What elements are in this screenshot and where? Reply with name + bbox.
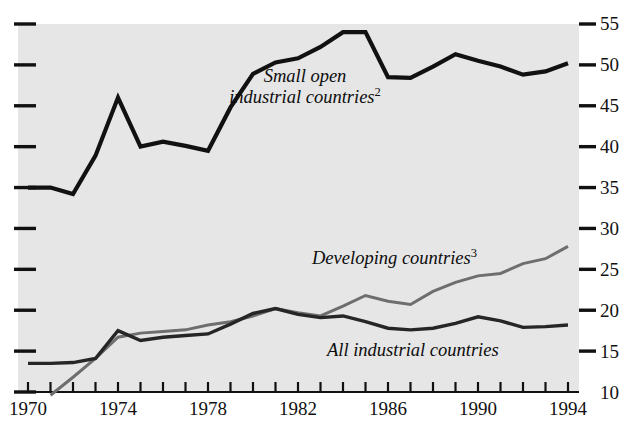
chart-figure: 55 50 45 40 35 30 25 20 15 10 1970 1974 …	[0, 0, 632, 430]
y-tick-label-15: 15	[600, 342, 619, 361]
x-tick-label-1986: 1986	[360, 399, 416, 418]
annotation-small-open-industrial-countries: Small open industrial countries2	[180, 66, 430, 107]
y-tick-label-30: 30	[600, 219, 619, 238]
x-tick-label-1974: 1974	[90, 399, 146, 418]
annotation-footnote: 3	[471, 246, 477, 260]
y-tick-label-25: 25	[600, 260, 619, 279]
annotation-line-1: Small open	[264, 66, 347, 86]
x-tick-label-1982: 1982	[270, 399, 326, 418]
y-tick-label-20: 20	[600, 301, 619, 320]
x-tick-label-1978: 1978	[180, 399, 236, 418]
x-tick-label-1994: 1994	[540, 399, 596, 418]
y-tick-label-50: 50	[600, 55, 619, 74]
annotation-all-industrial-countries: All industrial countries	[327, 340, 557, 361]
y-tick-label-35: 35	[600, 178, 619, 197]
y-tick-label-40: 40	[600, 137, 619, 156]
x-tick-label-1970: 1970	[0, 399, 56, 418]
annotation-developing-countries: Developing countries3	[312, 248, 542, 269]
y-tick-label-10: 10	[600, 383, 619, 402]
annotation-line-2: industrial countries	[229, 87, 374, 107]
annotation-line-1: All industrial countries	[327, 340, 499, 360]
x-tick-label-1990: 1990	[450, 399, 506, 418]
y-axis-right-ticks	[579, 24, 596, 351]
annotation-line-1: Developing countries	[312, 248, 471, 268]
annotation-footnote: 2	[375, 85, 381, 99]
chart-plot-area	[0, 0, 632, 430]
y-tick-label-45: 45	[600, 96, 619, 115]
y-tick-label-55: 55	[600, 14, 619, 33]
